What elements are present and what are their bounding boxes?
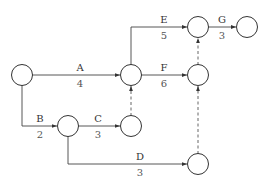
edge-E — [131, 27, 187, 65]
edge-D — [68, 136, 187, 164]
label-F: F — [161, 62, 168, 73]
node-2 — [121, 65, 142, 86]
node-4 — [237, 17, 258, 38]
label-D: D — [136, 151, 144, 162]
label-C: C — [94, 113, 102, 124]
duration-D: 3 — [137, 167, 143, 178]
node-7 — [121, 116, 142, 137]
duration-A: 4 — [77, 78, 83, 89]
label-E: E — [160, 14, 167, 25]
label-B: B — [36, 113, 43, 124]
duration-C: 3 — [95, 129, 101, 140]
node-6 — [58, 116, 79, 137]
label-G: G — [218, 14, 226, 25]
duration-F: 6 — [161, 78, 167, 89]
node-3 — [188, 17, 209, 38]
node-5 — [188, 65, 209, 86]
duration-B: 2 — [37, 129, 43, 140]
duration-E: 5 — [161, 30, 167, 41]
node-1 — [12, 65, 33, 86]
node-8 — [188, 154, 209, 175]
duration-G: 3 — [219, 30, 225, 41]
label-A: A — [75, 62, 84, 73]
network-diagram: A 4 B 2 C 3 D 3 E 5 F 6 G 3 — [0, 0, 275, 186]
